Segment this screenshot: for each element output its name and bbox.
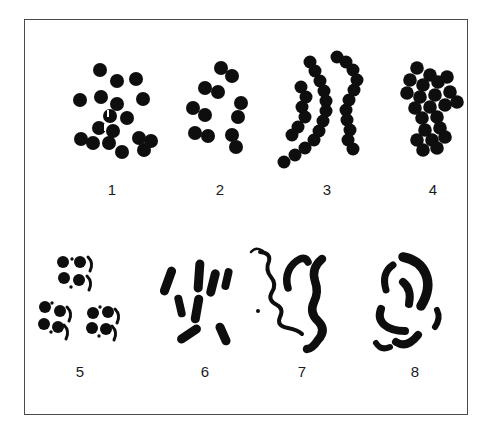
- diplococci-pairs: [186, 61, 248, 154]
- group-7-label: 7: [298, 364, 306, 379]
- vibrios-curved-rods: [376, 257, 439, 348]
- group-4-label: 4: [429, 182, 437, 197]
- cocci-irregular-cluster: [73, 63, 158, 159]
- group-2-label: 2: [216, 182, 224, 197]
- streptococci-chains: [278, 51, 364, 169]
- group-1-label: 1: [108, 182, 116, 197]
- group-6-label: 6: [201, 364, 209, 379]
- bacilli-rods: [159, 249, 263, 347]
- figure-canvas: 1 2 3 4 5 6 7 8: [0, 0, 491, 428]
- packed-cocci-cluster: [400, 61, 464, 157]
- group-5-label: 5: [76, 364, 84, 379]
- group-8-label: 8: [411, 364, 419, 379]
- group-3-label: 3: [323, 182, 331, 197]
- spirilla-wavy-forms: [260, 252, 323, 349]
- cocci-tetrads: [38, 256, 119, 340]
